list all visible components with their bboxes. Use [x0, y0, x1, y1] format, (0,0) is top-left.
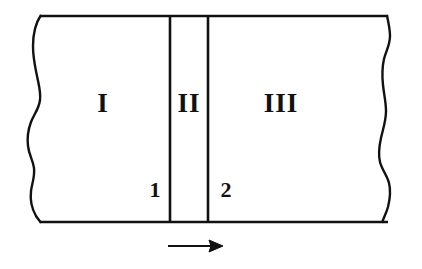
region-label-i: I	[97, 88, 109, 118]
region-label-ii: II	[177, 88, 200, 118]
direction-arrow-head	[209, 240, 223, 252]
schematic-diagram: I II III 1 2	[0, 0, 422, 269]
region-label-iii: III	[264, 88, 299, 118]
right-break-edge	[379, 15, 390, 223]
interface-label-2: 2	[221, 177, 232, 202]
left-break-edge	[28, 15, 41, 223]
interface-label-1: 1	[150, 177, 161, 202]
direction-arrow	[168, 240, 223, 252]
figure-canvas: I II III 1 2	[0, 0, 422, 269]
